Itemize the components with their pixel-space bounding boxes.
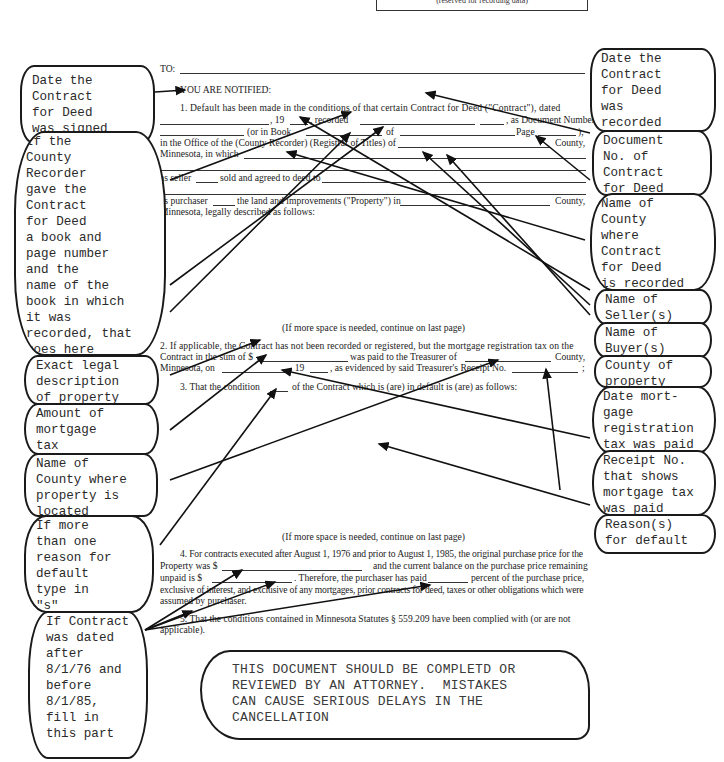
more-space-note-2: (If more space is needed, continue on la…: [282, 531, 465, 542]
p1-county-label: County,: [555, 137, 585, 148]
book-field[interactable]: [306, 135, 382, 136]
p2-19-label: , 19: [290, 362, 304, 373]
property-county-field[interactable]: [400, 205, 550, 206]
callout-default-reasons: Reason(s) for default: [594, 514, 716, 554]
callout-seller-name: Name of Seller(s): [594, 289, 712, 325]
callout-text: Date the Contract for Deed was recorded: [601, 52, 661, 130]
callout-text: Exact legal description of property: [36, 359, 119, 405]
purchase-price-field[interactable]: [222, 570, 362, 571]
callout-text: Name of County where Contract for Deed i…: [601, 197, 684, 291]
callout-text: Name of Seller(s): [605, 293, 673, 323]
callout-book-page: If the County Recorder gave the Contract…: [14, 131, 166, 356]
p2-on-label: Minnesota, on: [160, 362, 215, 373]
p1-sold-label: sold and agreed to deed to: [220, 172, 320, 183]
callout-buyer-name: Name of Buyer(s): [594, 322, 712, 358]
default-reasons-area[interactable]: [160, 396, 586, 531]
p4-percent-label: percent of the purchase price,: [471, 572, 584, 583]
p4-line5: assumed by purchaser.: [160, 595, 247, 606]
callout-date-recorded: Date the Contract for Deed was recorded: [590, 48, 716, 132]
p1-book-label: (or in Book: [247, 126, 291, 137]
p2-receipt-label: , as evidenced by said Treasurer's Recei…: [330, 362, 506, 373]
warning-text: THIS DOCUMENT SHOULD BE COMPLETD OR REVI…: [232, 662, 516, 725]
callout-text: Date the Contract for Deed was signed: [32, 74, 108, 136]
receipt-number-field[interactable]: [512, 372, 578, 373]
unpaid-balance-field[interactable]: [212, 582, 292, 583]
callout-contract-dated: If Contract was dated after 8/1/76 and b…: [28, 611, 148, 759]
date-signed-field[interactable]: [160, 124, 269, 125]
document-number-field[interactable]: [160, 135, 244, 136]
callout-text: Document No. of Contract for Deed: [603, 134, 663, 196]
callout-text: If the County Recorder gave the Contract…: [26, 135, 132, 356]
p3-condition-label: 3. That the condition: [180, 381, 260, 392]
recording-data-box: (reserved for recording data): [376, 0, 588, 11]
reserved-label: (reserved for recording data): [436, 0, 528, 5]
legal-description-area[interactable]: [160, 220, 586, 320]
callout-text: County of property: [605, 359, 673, 388]
p2-treasurer-label: was paid to the Treasurer of: [350, 351, 457, 362]
callout-tax-paid-date: Date mort- gage registration tax was pai…: [592, 386, 716, 454]
condition-plural-field[interactable]: [270, 391, 288, 392]
seller-plural-field[interactable]: [196, 182, 218, 183]
p2-semicolon: ;: [582, 362, 585, 373]
callout-text: Reason(s) for default: [605, 518, 688, 548]
tax-paid-date-field[interactable]: [222, 372, 288, 373]
date-signed-year-field[interactable]: [290, 124, 308, 125]
p1-page-label: Page: [516, 126, 535, 137]
callout-text: If Contract was dated after 8/1/76 and b…: [46, 615, 129, 741]
p2-line1: 2. If applicable, the Contract has not b…: [160, 340, 574, 351]
p2-county-label: County,: [555, 351, 585, 362]
p4-line4: exclusive of interest, and exclusive of …: [160, 584, 583, 595]
callout-document-number: Document No. of Contract for Deed: [592, 130, 712, 196]
callout-property-county: Name of County where property is located: [24, 453, 158, 517]
date-recorded-field[interactable]: [360, 124, 475, 125]
p5-line1: 5. That the conditions contained in Minn…: [180, 613, 570, 624]
p5-line2: applicable).: [160, 624, 205, 635]
p1-minnesota-label: Minnesota, in which: [160, 148, 239, 159]
seller-field-2[interactable]: [160, 170, 586, 171]
p3-default-label: of the Contract which is (are) in defaul…: [292, 381, 517, 392]
more-space-note-1: (If more space is needed, continue on la…: [282, 322, 465, 333]
percent-paid-field[interactable]: [428, 582, 468, 583]
p4-balance-label: and the current balance on the purchase …: [373, 560, 588, 571]
callout-multiple-reasons: If more than one reason for default type…: [24, 515, 154, 613]
p1-recorded-label: , recorded: [310, 114, 348, 125]
recorded-year-field[interactable]: [480, 124, 504, 125]
to-label: TO:: [160, 63, 175, 74]
tax-paid-year-field[interactable]: [310, 372, 328, 373]
callout-text: Date mort- gage registration tax was pai…: [603, 390, 694, 452]
callout-receipt-number: Receipt No. that shows mortgage tax was …: [592, 450, 716, 516]
p4-unpaid-label: unpaid is $: [160, 572, 202, 583]
p1-line1: 1. Default has been made in the conditio…: [180, 102, 561, 113]
book-name-field[interactable]: [400, 135, 515, 136]
callout-text: Name of Buyer(s): [605, 326, 665, 356]
callout-property-county-right: County of property: [594, 355, 712, 388]
p4-line1: 4. For contracts executed after August 1…: [180, 548, 583, 559]
callout-text: Amount of mortgage tax: [36, 407, 104, 453]
p1-19-label: , 19: [270, 114, 284, 125]
p1-office-label: in the Office of the (County Recorder) (…: [160, 137, 396, 148]
p1-as-purchaser-label: as purchaser: [160, 195, 208, 206]
page-field[interactable]: [538, 135, 576, 136]
callout-text: Name of County where property is located: [36, 457, 127, 517]
callout-text: Receipt No. that shows mortgage tax was …: [603, 454, 694, 516]
attorney-warning: THIS DOCUMENT SHOULD BE COMPLETD OR REVI…: [200, 650, 590, 740]
p4-paid-label: . Therefore, the purchaser has paid: [294, 572, 427, 583]
p2-sum-label: Contract in the sum of $: [160, 351, 253, 362]
callout-legal-description: Exact legal description of property: [24, 355, 159, 405]
p1-paren: ),: [578, 126, 584, 137]
buyer-field-1[interactable]: [322, 182, 586, 183]
p1-property-label: the land and improvements ("Property") i…: [237, 195, 401, 206]
to-field[interactable]: [180, 73, 585, 74]
seller-field-1[interactable]: [244, 158, 586, 159]
notified-heading: YOU ARE NOTIFIED:: [180, 84, 271, 95]
p1-legal-label: Minnesota, legally described as follows:: [160, 206, 315, 217]
p1-document-number-label: , as Document Number: [506, 114, 595, 125]
recording-county-field[interactable]: [398, 147, 550, 148]
p1-of-label: of: [386, 126, 394, 137]
callout-mortgage-tax-amount: Amount of mortgage tax: [24, 403, 159, 455]
callout-text: If more than one reason for default type…: [36, 519, 112, 613]
callout-recording-county: Name of County where Contract for Deed i…: [590, 193, 716, 291]
p1-county2-label: County,: [555, 195, 585, 206]
p4-price-label: Property was $: [160, 560, 218, 571]
p1-as-seller-label: as seller: [160, 172, 191, 183]
